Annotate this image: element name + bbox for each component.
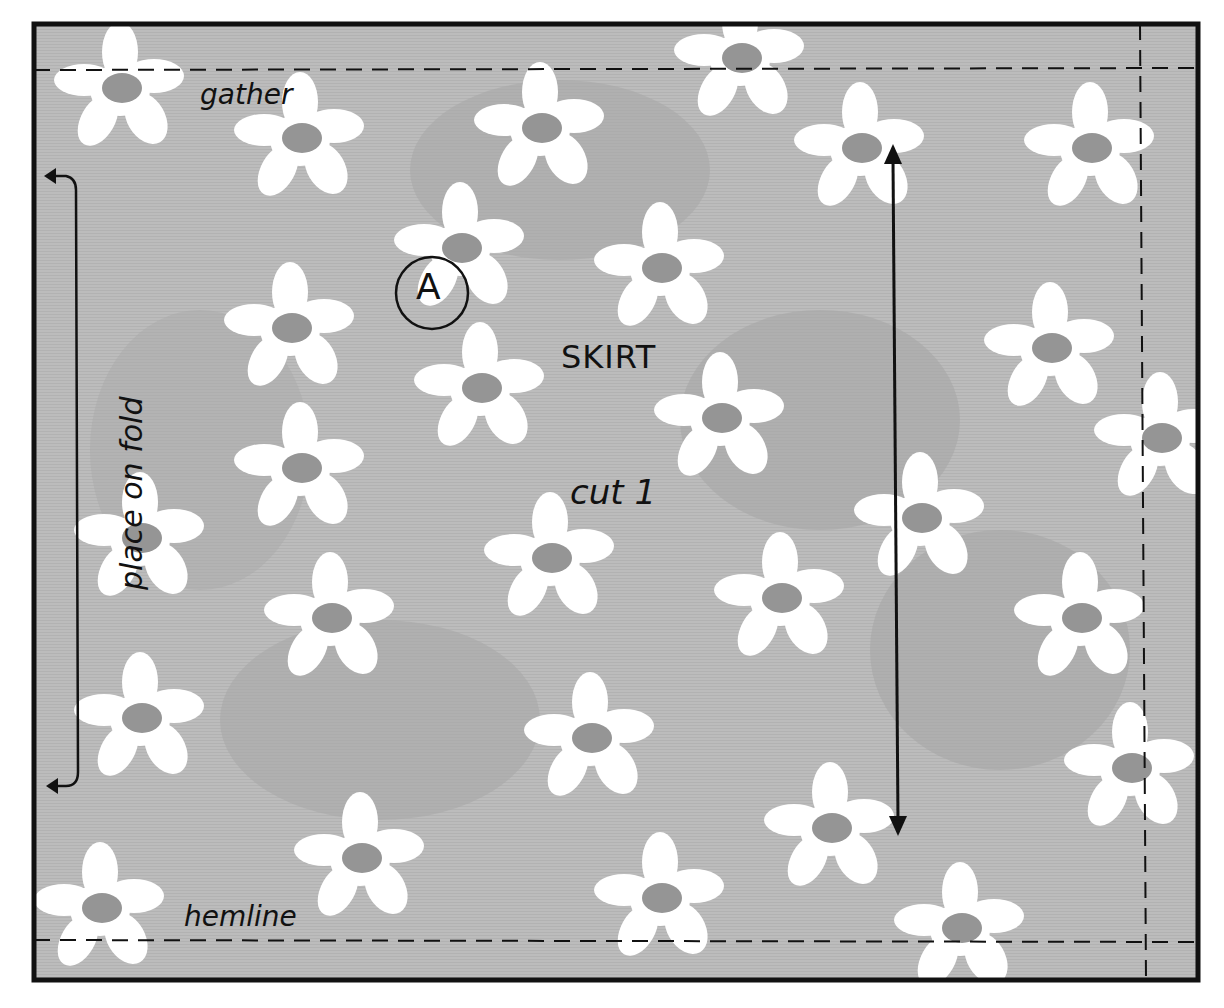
cut-instruction: cut 1 — [570, 472, 656, 512]
piece-title: SKIRT — [561, 338, 656, 376]
hemline-label: hemline — [184, 900, 297, 933]
place-on-fold-label: place on fold — [114, 397, 149, 590]
piece-id-label: A — [416, 266, 441, 307]
gather-label: gather — [200, 78, 292, 111]
pattern-diagram: A SKIRT cut 1 gather hemline place on fo… — [0, 0, 1224, 1008]
